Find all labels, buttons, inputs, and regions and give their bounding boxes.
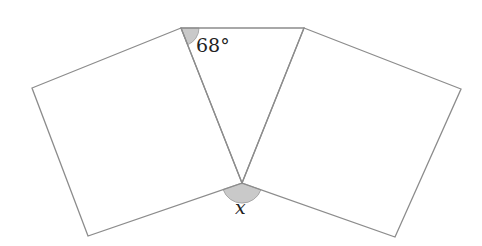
right-square	[242, 28, 461, 237]
geometry-diagram: 68° x	[0, 0, 482, 246]
angle-68-label: 68°	[196, 34, 230, 56]
left-square	[32, 28, 242, 236]
angle-x-label: x	[235, 196, 246, 218]
